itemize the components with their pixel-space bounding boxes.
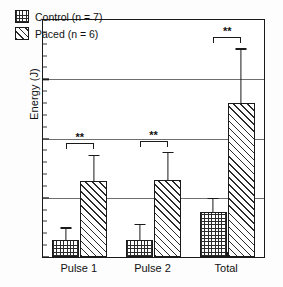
- error-bar-stem: [241, 48, 242, 103]
- error-bar-cap: [208, 198, 219, 199]
- bar-control-pulse-2: [126, 240, 153, 257]
- bar-paced-pulse-1: [80, 181, 107, 257]
- bar-paced-pulse-2: [154, 180, 181, 257]
- legend-item-paced: Paced (n = 6): [15, 25, 102, 42]
- gridline: [43, 79, 264, 80]
- x-axis-category-label: Total: [186, 262, 266, 274]
- significance-marker: **: [60, 133, 100, 142]
- y-axis-minor-tick: [43, 162, 47, 163]
- plot-area: 05101520******: [42, 19, 265, 258]
- error-bar-cap: [60, 227, 71, 228]
- y-axis-title: Energy (J): [28, 34, 40, 154]
- legend-label-paced: Paced (n = 6): [35, 28, 98, 40]
- y-axis-minor-tick: [43, 174, 47, 175]
- legend-swatch-control-icon: [15, 10, 29, 23]
- error-bar-stem: [65, 227, 66, 240]
- x-axis-category-label: Pulse 1: [39, 262, 119, 274]
- legend-item-control: Control (n = 7): [15, 8, 102, 25]
- significance-bracket: [66, 143, 94, 149]
- significance-marker: **: [207, 27, 247, 36]
- error-bar-stem: [213, 198, 214, 212]
- legend-label-control: Control (n = 7): [35, 11, 102, 23]
- y-axis-minor-tick: [43, 233, 47, 234]
- significance-bracket: [213, 37, 241, 43]
- y-axis-minor-tick: [43, 150, 47, 151]
- y-axis-minor-tick: [43, 245, 47, 246]
- y-axis-tick: [43, 138, 49, 139]
- error-bar-cap: [162, 152, 173, 153]
- y-axis-minor-tick: [43, 126, 47, 127]
- error-bar-cap: [134, 224, 145, 225]
- y-axis-minor-tick: [43, 102, 47, 103]
- y-axis-minor-tick: [43, 185, 47, 186]
- legend-swatch-paced-icon: [15, 27, 29, 40]
- y-axis-minor-tick: [43, 91, 47, 92]
- y-axis-minor-tick: [43, 209, 47, 210]
- y-axis-minor-tick: [43, 55, 47, 56]
- y-axis-tick: [43, 256, 49, 257]
- y-axis-minor-tick: [43, 67, 47, 68]
- x-axis-category-label: Pulse 2: [113, 262, 193, 274]
- y-axis-minor-tick: [43, 114, 47, 115]
- significance-bracket: [140, 141, 168, 147]
- bar-control-total: [200, 212, 227, 257]
- error-bar-stem: [93, 155, 94, 181]
- error-bar-stem: [139, 224, 140, 241]
- significance-marker: **: [134, 131, 174, 140]
- y-axis-minor-tick: [43, 221, 47, 222]
- error-bar-cap: [236, 48, 247, 49]
- chart-legend: Control (n = 7) Paced (n = 6): [12, 6, 106, 45]
- error-bar-cap: [88, 155, 99, 156]
- bar-control-pulse-1: [52, 240, 79, 257]
- error-bar-stem: [167, 152, 168, 180]
- y-axis-tick: [43, 79, 49, 80]
- figure-bar-chart-energy: Energy (J) 05101520****** Control (n = 7…: [0, 0, 283, 287]
- bar-paced-total: [228, 103, 255, 257]
- y-axis-tick: [43, 197, 49, 198]
